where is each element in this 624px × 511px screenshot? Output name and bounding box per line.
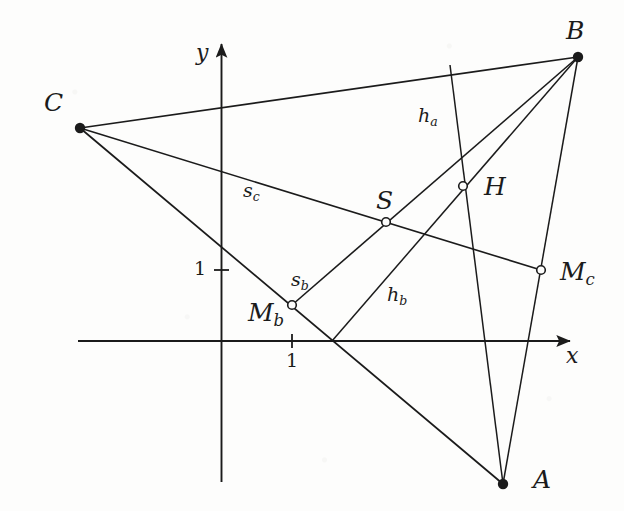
- segment-label-hb-base: h: [387, 283, 399, 305]
- altitude-ha-from-A: [450, 65, 503, 484]
- segment-label-sc-base: s: [243, 179, 253, 201]
- point-label-Mb-base: M: [248, 298, 274, 327]
- axis-group: [78, 44, 570, 482]
- point-Mc-marker: [537, 266, 546, 275]
- point-label-A: A: [533, 467, 551, 492]
- y-axis-label: y: [196, 42, 208, 64]
- point-label-H: H: [484, 174, 506, 199]
- point-A-marker: [498, 479, 508, 489]
- segment-label-sb-subscript: b: [301, 278, 309, 293]
- segment-label-sc: sc: [243, 181, 260, 203]
- segment-label-hb-subscript: b: [399, 293, 407, 308]
- point-S-marker: [382, 218, 391, 227]
- segment-label-sc-subscript: c: [253, 189, 260, 204]
- point-label-Mb-subscript: b: [274, 311, 285, 330]
- segment-label-hb: hb: [387, 285, 407, 307]
- segment-label-ha-base: h: [418, 104, 430, 126]
- x-axis-tick-label: 1: [286, 351, 298, 370]
- special-point-markers: [288, 182, 546, 310]
- point-label-S: S: [376, 188, 393, 213]
- geometry-figure: x y 1 1 B C A S H Mb Mc ha hb sb sc: [0, 0, 624, 511]
- point-label-Mc-base: M: [560, 257, 586, 286]
- point-label-Mc: Mc: [560, 259, 595, 288]
- side-CB: [80, 57, 578, 128]
- point-H-marker: [459, 182, 468, 191]
- point-Mb-marker: [288, 301, 297, 310]
- point-B-marker: [573, 52, 583, 62]
- point-C-marker: [75, 123, 85, 133]
- point-label-B: B: [566, 18, 584, 43]
- point-label-Mb: Mb: [248, 300, 284, 329]
- segment-label-ha-subscript: a: [430, 114, 437, 129]
- point-label-C: C: [44, 90, 63, 115]
- y-axis-tick-label: 1: [194, 259, 206, 278]
- figure-canvas: [0, 0, 624, 511]
- segment-label-ha: ha: [418, 106, 438, 128]
- segment-label-sb: sb: [291, 270, 309, 292]
- segment-label-sb-base: s: [291, 268, 301, 290]
- point-label-Mc-subscript: c: [586, 270, 595, 289]
- x-axis-label: x: [566, 345, 578, 367]
